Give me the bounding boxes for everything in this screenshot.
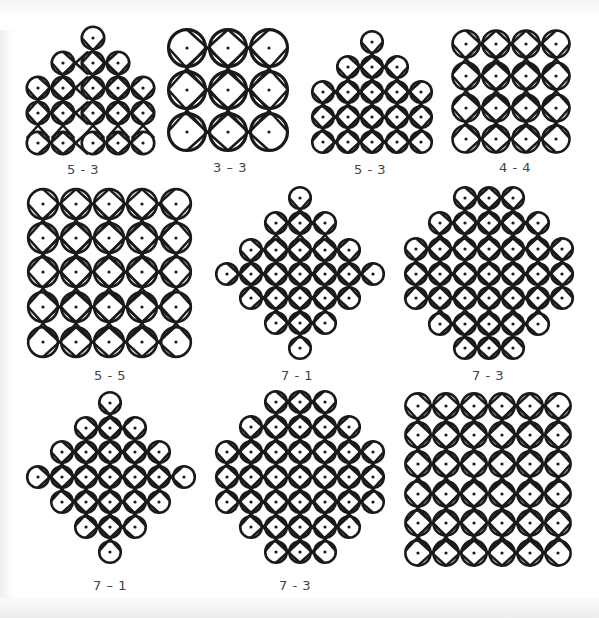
grid-dot xyxy=(116,141,119,144)
grid-dot xyxy=(140,305,143,308)
grid-dot xyxy=(536,296,539,299)
grid-dot xyxy=(416,551,419,554)
grid-dot xyxy=(141,86,144,89)
grid-dot xyxy=(274,425,277,428)
grid-dot xyxy=(226,46,229,49)
grid-dot xyxy=(323,425,326,428)
grid-dot xyxy=(560,272,563,275)
grid-dot xyxy=(511,272,514,275)
grid-dot xyxy=(511,346,514,349)
grid-dot xyxy=(41,340,44,343)
grid-dot xyxy=(274,321,277,324)
grid-dot xyxy=(528,462,531,465)
grid-dot xyxy=(472,404,475,407)
grid-dot xyxy=(108,401,111,404)
grid-dot xyxy=(267,130,270,133)
grid-dot xyxy=(249,248,252,251)
grid-dot xyxy=(528,433,531,436)
grid-dot xyxy=(157,450,160,453)
grid-dot xyxy=(74,305,77,308)
kolam-pattern-3 xyxy=(312,31,432,153)
grid-dot xyxy=(140,340,143,343)
grid-dot xyxy=(554,74,557,77)
kolam-pattern-4 xyxy=(453,31,570,153)
grid-dot xyxy=(323,500,326,503)
grid-dot xyxy=(141,111,144,114)
grid-dot xyxy=(274,450,277,453)
grid-dot xyxy=(536,272,539,275)
grid-dot xyxy=(487,296,490,299)
grid-dot xyxy=(438,272,441,275)
grid-dot xyxy=(347,525,350,528)
grid-dot xyxy=(41,305,44,308)
grid-dot xyxy=(133,450,136,453)
grid-dot xyxy=(346,115,349,118)
grid-dot xyxy=(444,433,447,436)
grid-dot xyxy=(225,450,228,453)
grid-dot xyxy=(487,272,490,275)
grid-dot xyxy=(438,296,441,299)
grid-dot xyxy=(323,525,326,528)
grid-dot xyxy=(464,42,467,45)
grid-dot xyxy=(444,462,447,465)
grid-dot xyxy=(511,247,514,250)
grid-dot xyxy=(226,88,229,91)
grid-dot xyxy=(91,61,94,64)
grid-dot xyxy=(414,296,417,299)
grid-dot xyxy=(494,42,497,45)
grid-dot xyxy=(321,115,324,118)
grid-dot xyxy=(116,111,119,114)
grid-dot xyxy=(500,462,503,465)
grid-dot xyxy=(347,425,350,428)
grid-dot xyxy=(370,65,373,68)
grid-dot xyxy=(487,196,490,199)
grid-dot xyxy=(346,65,349,68)
pattern-label-7: 7 - 3 xyxy=(472,368,504,383)
grid-dot xyxy=(528,492,531,495)
kolam-pattern-1 xyxy=(27,27,155,155)
grid-dot xyxy=(140,270,143,273)
grid-dot xyxy=(395,90,398,93)
grid-dot xyxy=(249,296,252,299)
grid-dot xyxy=(416,521,419,524)
grid-dot xyxy=(249,425,252,428)
grid-dot xyxy=(107,202,110,205)
grid-dot xyxy=(157,475,160,478)
grid-dot xyxy=(84,426,87,429)
grid-dot xyxy=(487,346,490,349)
grid-dot xyxy=(174,236,177,239)
grid-dot xyxy=(249,475,252,478)
grid-dot xyxy=(347,450,350,453)
grid-dot xyxy=(463,322,466,325)
grid-dot xyxy=(500,433,503,436)
grid-dot xyxy=(494,137,497,140)
pattern-label-6: 7 - 1 xyxy=(281,368,313,383)
grid-dot xyxy=(133,475,136,478)
pattern-label-2: 3 – 3 xyxy=(213,160,247,175)
grid-dot xyxy=(267,88,270,91)
grid-dot xyxy=(472,433,475,436)
grid-dot xyxy=(444,551,447,554)
grid-dot xyxy=(298,500,301,503)
grid-dot xyxy=(370,115,373,118)
grid-dot xyxy=(84,525,87,528)
grid-dot xyxy=(494,106,497,109)
grid-dot xyxy=(298,272,301,275)
grid-dot xyxy=(274,475,277,478)
grid-dot xyxy=(524,106,527,109)
grid-dot xyxy=(36,86,39,89)
grid-dot xyxy=(556,404,559,407)
grid-dot xyxy=(91,141,94,144)
grid-dot xyxy=(416,404,419,407)
grid-dot xyxy=(554,137,557,140)
grid-dot xyxy=(84,475,87,478)
grid-dot xyxy=(274,550,277,553)
grid-dot xyxy=(185,88,188,91)
kolam-pattern-5 xyxy=(28,189,191,357)
grid-dot xyxy=(116,61,119,64)
kolam-pattern-10 xyxy=(405,393,570,565)
grid-dot xyxy=(323,475,326,478)
grid-dot xyxy=(74,270,77,273)
grid-dot xyxy=(249,500,252,503)
grid-dot xyxy=(74,340,77,343)
